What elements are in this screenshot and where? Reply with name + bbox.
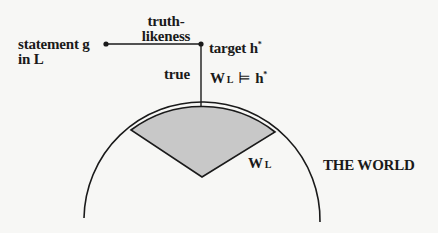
- sector-w: W: [248, 155, 263, 171]
- entailment-label: WL ⊨ h*: [210, 67, 267, 87]
- entails-symbol: ⊨: [238, 70, 251, 86]
- entail-w: W: [210, 70, 225, 86]
- world-label: THE WORLD: [323, 158, 415, 173]
- entail-star: *: [263, 70, 267, 79]
- sector-sub-l: L: [265, 159, 271, 170]
- target-label: target h*: [209, 37, 262, 56]
- statement-label-line1: statement g: [18, 37, 90, 52]
- truthlikeness-label-line2: likeness: [136, 29, 196, 44]
- truthlikeness-label: truth- likeness: [136, 14, 196, 44]
- statement-label: statement g in L: [18, 37, 90, 67]
- truthlikeness-label-line1: truth-: [136, 14, 196, 29]
- entail-sub-l: L: [227, 74, 233, 85]
- target-point: [198, 41, 203, 46]
- target-star: *: [258, 40, 262, 49]
- diagram-canvas: [0, 0, 438, 233]
- sector-wl-label: WL: [248, 156, 271, 172]
- statement-point: [103, 41, 108, 46]
- statement-label-line2: in L: [18, 52, 90, 67]
- target-text: target h: [209, 40, 258, 56]
- true-label: true: [164, 67, 190, 82]
